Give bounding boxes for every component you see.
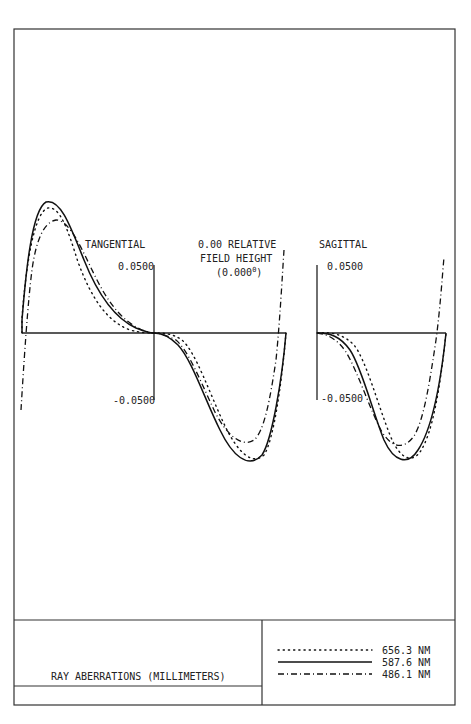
sagittal-plot: SAGITTAL 0.0500 -0.0500 [317,239,446,460]
sagittal-label: SAGITTAL [319,239,367,250]
sagittal-ytick-top: 0.0500 [327,261,363,272]
legend: 656.3 NM 587.6 NM 486.1 NM [278,645,430,680]
tangential-ytick-bottom: -0.0500 [113,395,155,406]
ray-aberration-chart: TANGENTIAL 0.0500 -0.0500 0.00 RELATIVE … [0,0,471,724]
field-label-line1: 0.00 RELATIVE [198,239,276,250]
field-label-line3: (0.0000) [216,266,262,278]
chart-title: RAY ABERRATIONS (MILLIMETERS) [51,671,226,682]
tangential-label: TANGENTIAL [85,239,145,250]
legend-label-656-3: 656.3 NM [382,645,430,656]
series-486-1-nm-sagittal [317,257,444,445]
legend-label-587-6: 587.6 NM [382,657,430,668]
field-label-line2: FIELD HEIGHT [200,253,272,264]
tangential-ytick-top: 0.0500 [118,261,154,272]
sagittal-ytick-bottom: -0.0500 [321,393,363,404]
legend-label-486-1: 486.1 NM [382,669,430,680]
outer-frame [14,29,455,705]
field-height-label: 0.00 RELATIVE FIELD HEIGHT (0.0000) [198,239,276,278]
